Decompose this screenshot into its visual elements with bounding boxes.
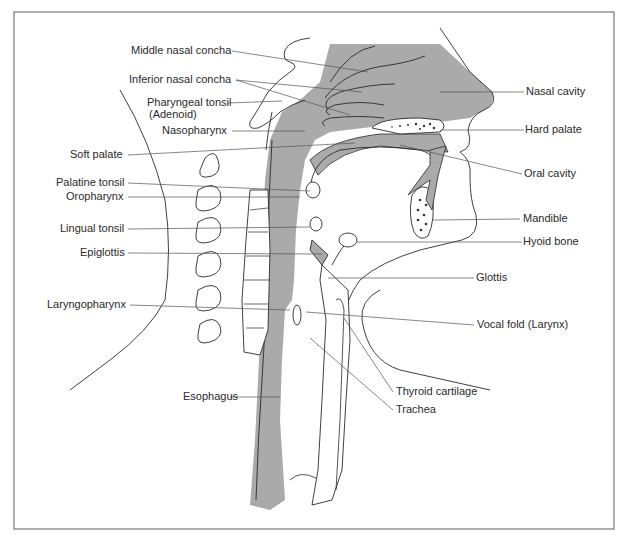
label-epiglottis: Epiglottis <box>80 246 125 259</box>
anatomy-diagram <box>0 0 630 545</box>
nasal-cavity-fill <box>250 44 493 510</box>
hyoid-shape <box>339 233 357 247</box>
label-nasopharynx: Nasopharynx <box>162 124 227 137</box>
label-palatine-tonsil: Palatine tonsil <box>56 176 125 189</box>
label-mandible: Mandible <box>523 212 568 225</box>
label-soft-palate: Soft palate <box>70 148 123 161</box>
label-nasal-cavity: Nasal cavity <box>526 85 585 98</box>
neck-outline <box>70 90 169 390</box>
label-laryngopharynx: Laryngopharynx <box>47 298 126 311</box>
label-hyoid-bone: Hyoid bone <box>523 235 579 248</box>
label-vocal-fold: Vocal fold (Larynx) <box>477 318 568 331</box>
label-middle-nasal-concha: Middle nasal concha <box>131 44 231 57</box>
spinal-column <box>242 190 270 355</box>
label-glottis: Glottis <box>476 271 507 284</box>
label-trachea: Trachea <box>396 403 436 416</box>
label-hard-palate: Hard palate <box>525 123 582 136</box>
label-lingual-tonsil: Lingual tonsil <box>60 222 124 235</box>
palatine-tonsil-shape <box>306 182 320 198</box>
vertebrae <box>196 153 221 343</box>
label-oral-cavity: Oral cavity <box>524 167 576 180</box>
label-adenoid: (Adenoid) <box>149 108 197 121</box>
label-oropharynx: Oropharynx <box>66 190 123 203</box>
label-esophagus: Esophagus <box>183 390 238 403</box>
lingual-tonsil-shape <box>310 217 322 231</box>
label-thyroid-cartilage: Thyroid cartilage <box>396 385 477 398</box>
label-inferior-nasal-concha: Inferior nasal concha <box>129 73 231 86</box>
larynx-tube <box>312 265 350 505</box>
